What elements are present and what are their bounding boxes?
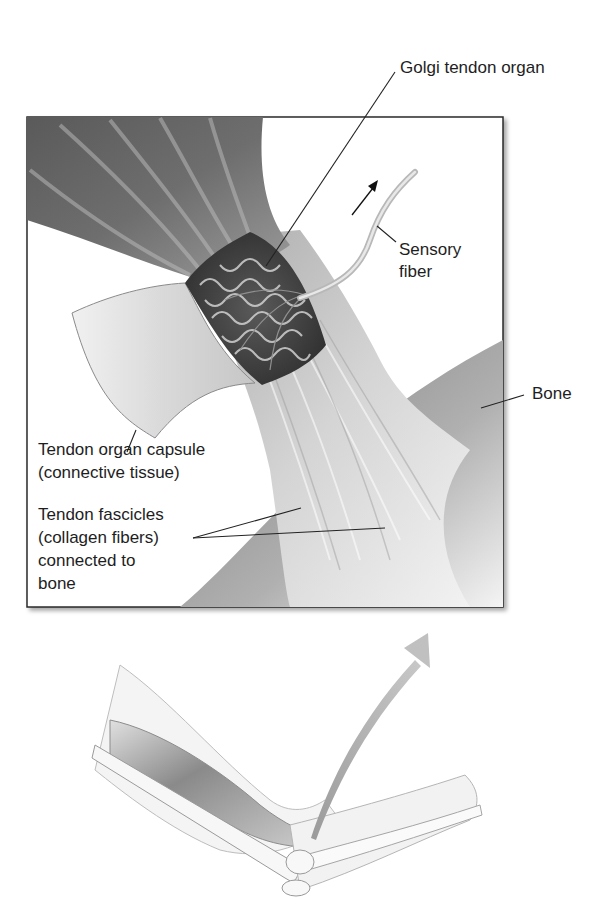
label-fascicles-line4: bone: [38, 574, 76, 594]
label-sensory-fiber-line2: fiber: [399, 262, 432, 282]
label-bone: Bone: [532, 384, 572, 404]
label-capsule-line2: (connective tissue): [38, 463, 180, 483]
label-sensory-fiber-line1: Sensory: [399, 240, 461, 260]
arm-illustration: [92, 665, 482, 896]
label-golgi-tendon-organ: Golgi tendon organ: [400, 58, 545, 78]
label-fascicles-line3: connected to: [38, 551, 135, 571]
label-fascicles-line2: (collagen fibers): [38, 528, 159, 548]
label-capsule-line1: Tendon organ capsule: [38, 440, 205, 460]
label-fascicles-line1: Tendon fascicles: [38, 505, 164, 525]
elbow-joint: [286, 850, 314, 874]
